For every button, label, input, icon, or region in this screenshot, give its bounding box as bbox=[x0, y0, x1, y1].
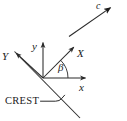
wave-vector-c-line bbox=[69, 8, 111, 37]
angle-label-beta: β bbox=[58, 62, 63, 73]
crest-line bbox=[15, 52, 81, 119]
axis-label-Y-upper: Y bbox=[2, 51, 8, 62]
axis-label-y-lower: y bbox=[32, 41, 37, 52]
crest-label: CREST bbox=[5, 96, 39, 107]
axis-label-X-upper: X bbox=[77, 48, 84, 59]
wave-vector-label-c: c bbox=[96, 1, 100, 11]
axis-label-x-lower: x bbox=[79, 82, 84, 93]
axis-Y-upper-line bbox=[16, 53, 43, 78]
coordinate-axes-figure: y x X Y c β CREST bbox=[0, 0, 127, 121]
